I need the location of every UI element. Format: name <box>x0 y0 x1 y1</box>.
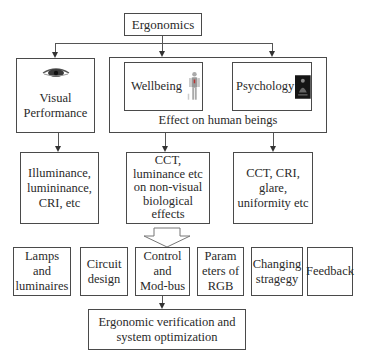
wellbeing-box: Wellbeing <box>124 62 203 111</box>
factor-label: CCT, luminance etc on non-visual biologi… <box>133 154 203 222</box>
factor-label: CCT, CRI, glare, uniformity etc <box>237 166 308 211</box>
psychology-box: Psychology <box>232 62 312 111</box>
visual-performance-label: Visual Performance <box>24 91 88 121</box>
eye-icon <box>41 67 71 79</box>
effect-caption: Effect on human beings <box>159 113 278 128</box>
impl-label: Param eters of RGB <box>202 249 239 294</box>
impl-box-strategy: Changing stragegy <box>251 247 303 296</box>
factor-box-wellbeing: CCT, luminance etc on non-visual biologi… <box>126 152 210 224</box>
impl-box-rgb: Param eters of RGB <box>197 247 244 296</box>
human-anatomy-icon <box>187 66 202 108</box>
impl-label: Changing stragegy <box>253 257 302 287</box>
psychology-label: Psychology <box>236 79 294 94</box>
factor-label: Illuminance, lumininance, CRI, etc <box>27 166 92 211</box>
factor-box-psychology: CCT, CRI, glare, uniformity etc <box>233 152 313 224</box>
result-label: Ergonomic verification and system optimi… <box>98 315 235 345</box>
wellbeing-label: Wellbeing <box>131 79 182 94</box>
ergonomics-label: Ergonomics <box>132 17 195 32</box>
impl-label: Lamps and luminaires <box>16 249 69 294</box>
ergonomics-box: Ergonomics <box>124 13 202 36</box>
impl-box-feedback: Feedback <box>307 247 353 296</box>
person-silhouette-icon <box>295 72 311 102</box>
impl-label: Control and Mod-bus <box>140 249 185 294</box>
impl-box-control: Control and Mod-bus <box>135 247 190 296</box>
impl-label: Circuit design <box>87 257 122 287</box>
result-box: Ergonomic verification and system optimi… <box>88 309 246 350</box>
factor-box-visual: Illuminance, lumininance, CRI, etc <box>20 152 99 224</box>
impl-box-circuit: Circuit design <box>80 247 128 296</box>
impl-label: Feedback <box>306 264 354 279</box>
impl-box-lamps: Lamps and luminaires <box>13 247 71 296</box>
visual-performance-box: Visual Performance <box>16 58 95 133</box>
